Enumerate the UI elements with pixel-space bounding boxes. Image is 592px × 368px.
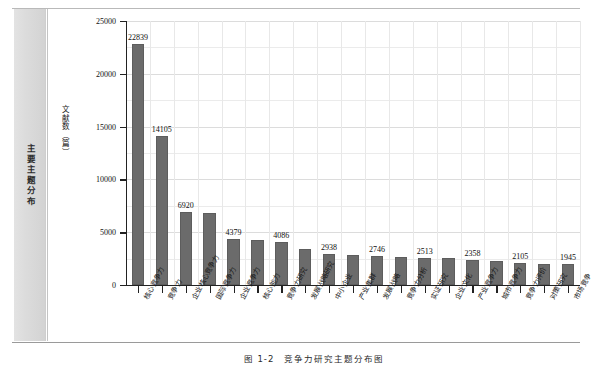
figure-number: 图 1-2	[244, 354, 275, 364]
x-axis-tick	[568, 286, 569, 293]
bar-value-label: 2938	[321, 243, 337, 252]
grid-line-vertical	[461, 21, 462, 285]
x-axis-tick	[520, 286, 521, 293]
x-axis-tick	[186, 286, 187, 293]
grid-line-horizontal	[126, 47, 580, 48]
x-axis-tick	[305, 286, 306, 293]
bar	[180, 212, 192, 285]
y-axis-title: 文献数（篇）	[56, 105, 70, 156]
figure-caption: 图 1-2竞争力研究主题分布图	[48, 352, 580, 364]
y-axis-tick	[120, 21, 126, 22]
bar-value-label: 2513	[417, 247, 433, 256]
page-frame-bottom-rule	[12, 342, 580, 343]
grid-line-horizontal	[126, 74, 580, 75]
x-axis-tick	[234, 286, 235, 293]
running-head-label: 主要主题分布	[24, 144, 36, 207]
x-axis-tick	[210, 286, 211, 293]
plot-area	[126, 21, 580, 285]
grid-line-vertical	[293, 21, 294, 285]
grid-line-horizontal	[126, 127, 580, 128]
running-head-tab: 主要主题分布	[14, 9, 46, 341]
y-axis-tick	[120, 74, 126, 75]
grid-line-vertical	[413, 21, 414, 285]
grid-line-vertical	[389, 21, 390, 285]
grid-line-vertical	[222, 21, 223, 285]
bar	[156, 136, 168, 285]
grid-line-vertical	[484, 21, 485, 285]
grid-line-vertical	[341, 21, 342, 285]
grid-lines	[126, 21, 580, 285]
y-axis-tick	[120, 179, 126, 180]
bar	[132, 44, 144, 285]
grid-line-horizontal	[126, 153, 580, 154]
x-axis-tick	[449, 286, 450, 293]
x-axis-tick	[353, 286, 354, 293]
grid-line-horizontal	[126, 100, 580, 101]
bar-value-label: 2746	[369, 245, 385, 254]
grid-line-vertical	[198, 21, 199, 285]
y-axis-tick	[120, 285, 126, 286]
x-axis-tick	[425, 286, 426, 293]
grid-line-horizontal	[126, 21, 580, 22]
y-axis-tick-label: 10000	[96, 175, 116, 184]
grid-line-vertical	[150, 21, 151, 285]
y-axis-tick-label: 20000	[96, 69, 116, 78]
x-axis-tick	[162, 286, 163, 293]
grid-line-vertical	[245, 21, 246, 285]
bar-value-label: 14105	[152, 125, 172, 134]
chart-figure: 文献数（篇） 0500010000150002000025000 2283969…	[48, 9, 580, 342]
figure-title: 竞争力研究主题分布图	[284, 354, 384, 364]
bar-value-label: 4379	[226, 228, 242, 237]
y-axis-tick-label: 15000	[96, 122, 116, 131]
grid-line-horizontal	[126, 206, 580, 207]
grid-line-vertical	[269, 21, 270, 285]
grid-line-vertical	[174, 21, 175, 285]
grid-line-horizontal	[126, 232, 580, 233]
x-axis-tick	[544, 286, 545, 293]
x-axis-tick	[138, 286, 139, 293]
bar-value-label: 1945	[560, 253, 576, 262]
bar-value-label: 6920	[178, 201, 194, 210]
bar-value-label: 22839	[128, 33, 148, 42]
y-axis-tick	[120, 127, 126, 128]
x-axis-tick	[401, 286, 402, 293]
grid-line-vertical	[556, 21, 557, 285]
grid-line-vertical	[532, 21, 533, 285]
y-axis-tick-label: 25000	[96, 17, 116, 26]
x-axis-tick	[472, 286, 473, 293]
x-axis-tick	[281, 286, 282, 293]
figure-page: 主要主题分布 文献数（篇） 0500010000150002000025000 …	[0, 0, 592, 368]
grid-line-vertical	[365, 21, 366, 285]
y-axis-tick-label: 0	[112, 281, 116, 290]
x-axis-tick	[496, 286, 497, 293]
grid-line-vertical	[437, 21, 438, 285]
bar-value-label: 4086	[273, 231, 289, 240]
x-axis-tick	[329, 286, 330, 293]
grid-line-horizontal	[126, 179, 580, 180]
y-axis-tick-label: 5000	[100, 228, 116, 237]
grid-line-vertical	[508, 21, 509, 285]
bar-value-label: 2358	[464, 249, 480, 258]
grid-line-vertical	[580, 21, 581, 285]
y-axis-line	[126, 21, 127, 285]
bar-value-label: 2105	[512, 252, 528, 261]
x-axis-tick	[257, 286, 258, 293]
x-axis-tick	[377, 286, 378, 293]
grid-line-vertical	[317, 21, 318, 285]
y-axis-tick	[120, 232, 126, 233]
